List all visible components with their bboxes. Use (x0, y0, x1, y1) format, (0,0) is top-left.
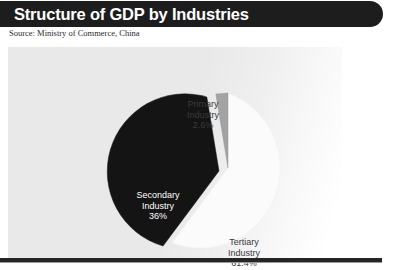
pie-label-secondary-value: 36% (112, 211, 204, 222)
title-bar: Structure of GDP by Industries (0, 1, 383, 27)
pie-label-primary-line2: Industry (151, 110, 255, 121)
pie-chart: Primary Industry 2.6% Secondary Industry… (8, 47, 342, 258)
source-caption: Source: Ministry of Commerce, China (9, 28, 140, 38)
pie-label-primary: Primary Industry 2.6% (151, 99, 255, 131)
pie-label-primary-line1: Primary (151, 99, 255, 110)
pie-label-tertiary: Tertiary Industry 61.4% (198, 237, 290, 269)
pie-label-secondary-line1: Secondary (112, 190, 204, 201)
slide-root: Structure of GDP by Industries Source: M… (0, 0, 393, 270)
pie-label-tertiary-line1: Tertiary (198, 237, 290, 248)
page-title: Structure of GDP by Industries (14, 5, 249, 24)
pie-label-primary-value: 2.6% (151, 120, 255, 131)
chart-plot-area: Primary Industry 2.6% Secondary Industry… (8, 47, 342, 258)
pie-chart-svg (8, 47, 342, 258)
pie-label-secondary-line2: Industry (112, 201, 204, 212)
footer-rule-shadow (0, 262, 382, 263)
pie-label-tertiary-line2: Industry (198, 248, 290, 259)
pie-label-secondary: Secondary Industry 36% (112, 190, 204, 222)
